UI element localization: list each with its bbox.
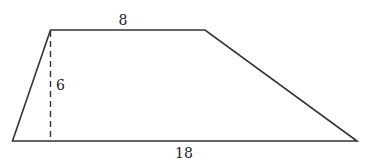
top-base-label: 8 — [119, 12, 128, 28]
bottom-base-label: 18 — [175, 145, 193, 161]
height-label: 6 — [56, 77, 65, 93]
trapezoid-diagram: 8 6 18 — [0, 0, 366, 162]
